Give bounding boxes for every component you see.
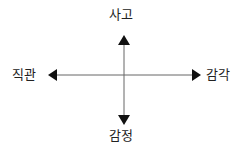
arrow-right-icon	[192, 69, 201, 81]
label-bottom: 감정	[109, 128, 133, 143]
label-left: 직관	[12, 67, 36, 82]
arrow-down-icon	[118, 115, 130, 125]
label-right: 감각	[206, 67, 230, 82]
arrow-up-icon	[118, 35, 130, 45]
arrow-left-icon	[48, 69, 57, 81]
label-top: 사고	[109, 7, 133, 22]
